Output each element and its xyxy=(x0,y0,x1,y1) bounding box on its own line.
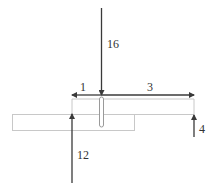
center-rod xyxy=(100,97,104,127)
force-diagram: 16 1 3 12 4 xyxy=(0,0,212,185)
right-distance-label: 3 xyxy=(147,80,153,94)
right-force-label: 4 xyxy=(199,122,205,136)
bottom-left-force-label: 12 xyxy=(77,148,89,162)
lower-block xyxy=(13,115,135,131)
top-force-label: 16 xyxy=(107,37,119,51)
left-distance-label: 1 xyxy=(80,80,86,94)
